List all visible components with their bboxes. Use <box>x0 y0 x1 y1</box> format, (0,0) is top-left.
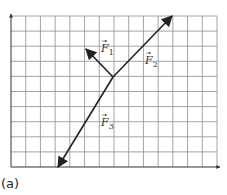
label-f3: F3 <box>100 116 114 131</box>
grid <box>11 16 217 167</box>
label-f1: F1 <box>100 42 114 57</box>
axes <box>11 14 220 167</box>
force-vector-diagram: F1F2F3 <box>0 0 227 195</box>
figure-caption: (a) <box>1 176 19 191</box>
label-f2: F2 <box>144 54 158 69</box>
